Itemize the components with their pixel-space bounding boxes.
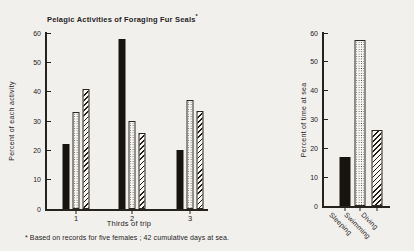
figure-title-asterisk: * bbox=[196, 13, 198, 19]
bar-group-diving bbox=[371, 130, 382, 206]
left-x-axis-title: Thirds of trip bbox=[107, 219, 151, 228]
y-tick-mark bbox=[47, 33, 51, 34]
right-y-axis-title: Percent of time at sea bbox=[300, 83, 307, 158]
left-y-axis-title: Percent of each activity bbox=[8, 81, 15, 161]
figure-title: Pelagic Activities of Foraging Fur Seals… bbox=[47, 13, 198, 24]
y-tick-mark bbox=[324, 148, 328, 149]
left-x-axis-line bbox=[45, 209, 208, 211]
x-tick-mark bbox=[376, 208, 377, 211]
bar-group-1 bbox=[63, 89, 90, 209]
y-tick-label: 20 bbox=[310, 144, 318, 153]
bar-swimming bbox=[354, 40, 365, 206]
y-tick-label: 40 bbox=[310, 86, 318, 95]
bar-diving bbox=[139, 133, 146, 209]
figure-footnote: * Based on records for five females ; 42… bbox=[25, 234, 229, 241]
y-tick-label: 60 bbox=[310, 29, 318, 38]
y-tick-label: 10 bbox=[33, 175, 41, 184]
y-tick-mark bbox=[324, 206, 328, 207]
y-tick-mark bbox=[47, 121, 51, 122]
right-chart-plot: 0102030405060SleepingSwimmingDiving bbox=[323, 33, 390, 206]
bar-group-sleeping bbox=[339, 157, 350, 206]
y-tick-mark bbox=[47, 179, 51, 180]
y-tick-label: 30 bbox=[33, 117, 41, 126]
bar-group-swimming bbox=[354, 40, 365, 206]
y-tick-label: 40 bbox=[33, 87, 41, 96]
bar-sleeping bbox=[177, 150, 184, 209]
bar-diving bbox=[371, 130, 382, 206]
y-tick-mark bbox=[324, 33, 328, 34]
x-tick-mark bbox=[359, 208, 360, 211]
bar-sleeping bbox=[119, 39, 126, 209]
y-tick-label: 60 bbox=[33, 29, 41, 38]
x-category-label-1: 1 bbox=[74, 214, 78, 223]
y-tick-mark bbox=[47, 209, 51, 210]
y-tick-mark bbox=[324, 61, 328, 62]
x-category-label-3: 3 bbox=[188, 214, 192, 223]
y-tick-mark bbox=[47, 150, 51, 151]
x-tick-mark bbox=[344, 208, 345, 211]
y-tick-mark bbox=[324, 119, 328, 120]
bar-diving bbox=[197, 111, 204, 209]
y-tick-label: 50 bbox=[310, 57, 318, 66]
right-x-axis-line bbox=[322, 206, 390, 208]
figure-scan: Pelagic Activities of Foraging Fur Seals… bbox=[0, 0, 414, 251]
figure-title-text: Pelagic Activities of Foraging Fur Seals bbox=[47, 15, 196, 24]
bar-sleeping bbox=[63, 144, 70, 209]
bar-swimming bbox=[187, 100, 194, 209]
bar-diving bbox=[83, 89, 90, 209]
y-tick-label: 20 bbox=[33, 146, 41, 155]
bar-swimming bbox=[129, 121, 136, 209]
y-tick-mark bbox=[47, 62, 51, 63]
bar-swimming bbox=[73, 112, 80, 209]
bar-group-2 bbox=[119, 39, 146, 209]
y-tick-label: 0 bbox=[314, 202, 318, 211]
y-tick-mark bbox=[324, 90, 328, 91]
y-tick-label: 50 bbox=[33, 58, 41, 67]
bar-sleeping bbox=[339, 157, 350, 206]
y-tick-mark bbox=[324, 177, 328, 178]
bar-group-3 bbox=[177, 100, 204, 209]
y-tick-label: 10 bbox=[310, 173, 318, 182]
left-chart-plot: 0102030405060123 bbox=[46, 33, 208, 209]
right-y-axis-line bbox=[322, 32, 324, 208]
y-tick-label: 30 bbox=[310, 115, 318, 124]
y-tick-mark bbox=[47, 91, 51, 92]
left-y-axis-line bbox=[45, 32, 47, 211]
y-tick-label: 0 bbox=[37, 205, 41, 214]
